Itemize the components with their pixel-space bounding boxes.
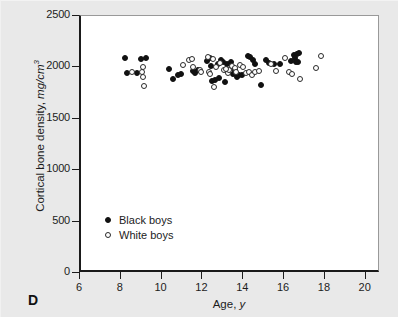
- x-axis-tick-mark: [201, 272, 202, 279]
- y-axis-units: mg/cm: [34, 64, 46, 99]
- scatter-point: [210, 56, 216, 62]
- scatter-point: [282, 55, 288, 61]
- scatter-point: [277, 61, 283, 67]
- y-axis-tick-mark: [72, 221, 79, 222]
- x-axis-tick-label: 18: [309, 281, 339, 293]
- scatter-point: [297, 76, 303, 82]
- scatter-point: [256, 68, 262, 74]
- y-axis-units-exponent: 3: [32, 60, 41, 64]
- scatter-point: [273, 68, 279, 74]
- x-axis-tick-mark: [365, 272, 366, 279]
- x-axis-tick-label: 8: [105, 281, 135, 293]
- scatter-point: [207, 71, 213, 77]
- scatter-point: [166, 66, 172, 72]
- y-axis-tick-label: 0: [18, 265, 70, 277]
- x-axis-tick-label: 12: [186, 281, 216, 293]
- x-axis-tick-label: 10: [146, 281, 176, 293]
- figure-panel-d: 05001000150020002500 68101214161820 Cort…: [0, 0, 398, 317]
- scatter-point: [223, 66, 229, 72]
- y-axis-tick-mark: [72, 272, 79, 273]
- scatter-point: [268, 61, 274, 67]
- x-axis-tick-mark: [79, 272, 80, 279]
- scatter-point: [217, 60, 223, 66]
- x-axis-label-text: Age,: [213, 298, 240, 310]
- scatter-point: [222, 79, 228, 85]
- y-axis-tick-mark: [72, 66, 79, 67]
- open-circle-icon: [105, 232, 111, 238]
- x-axis-tick-label: 20: [350, 281, 380, 293]
- x-axis-tick-label: 6: [64, 281, 94, 293]
- legend-item-black-boys: Black boys: [105, 212, 173, 227]
- scatter-point: [180, 62, 186, 68]
- x-axis-tick-label: 16: [268, 281, 298, 293]
- filled-circle-icon: [105, 217, 111, 223]
- scatter-point: [178, 71, 184, 77]
- x-axis-tick-mark: [120, 272, 121, 279]
- y-axis-tick-mark: [72, 169, 79, 170]
- x-axis-tick-mark: [324, 272, 325, 279]
- legend-label-white-boys: White boys: [119, 229, 173, 241]
- scatter-point: [143, 55, 149, 61]
- legend-label-black-boys: Black boys: [119, 214, 172, 226]
- scatter-point: [141, 83, 147, 89]
- scatter-point: [258, 82, 264, 88]
- scatter-point: [296, 50, 302, 56]
- scatter-point: [216, 75, 222, 81]
- scatter-point: [129, 69, 135, 75]
- legend: Black boys White boys: [105, 212, 173, 242]
- scatter-point: [139, 69, 145, 75]
- x-axis-label-italic: y: [240, 298, 246, 310]
- y-axis-label-text: Cortical bone density,: [34, 99, 46, 212]
- scatter-point: [190, 64, 196, 70]
- scatter-point: [318, 53, 324, 59]
- scatter-point: [233, 69, 239, 75]
- x-axis-tick-mark: [283, 272, 284, 279]
- scatter-point: [252, 61, 258, 67]
- legend-item-white-boys: White boys: [105, 227, 173, 242]
- scatter-point: [198, 69, 204, 75]
- scatter-point: [293, 59, 299, 65]
- scatter-point: [211, 84, 217, 90]
- scatter-point: [122, 55, 128, 61]
- panel-label: D: [28, 292, 38, 308]
- y-axis-tick-mark: [72, 15, 79, 16]
- y-axis-tick-label: 2500: [18, 8, 70, 20]
- scatter-point: [240, 64, 246, 70]
- scatter-point: [289, 71, 295, 77]
- y-axis-tick-mark: [72, 118, 79, 119]
- scatter-point: [140, 74, 146, 80]
- y-axis-label: Cortical bone density, mg/cm3: [32, 21, 46, 251]
- x-axis-label: Age, y: [79, 298, 379, 310]
- scatter-point: [313, 65, 319, 71]
- x-axis-tick-mark: [161, 272, 162, 279]
- x-axis-tick-label: 14: [227, 281, 257, 293]
- x-axis-tick-mark: [242, 272, 243, 279]
- scatter-point: [189, 56, 195, 62]
